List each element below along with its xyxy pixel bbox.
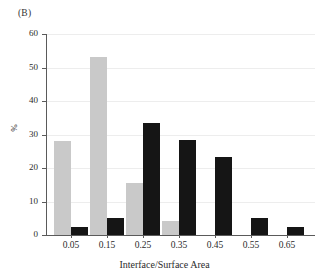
bar-black-2 — [143, 123, 160, 235]
histogram-figure: (B) % 60 50 40 30 20 10 0 — [0, 0, 329, 278]
x-tick-5 — [251, 235, 252, 238]
x-tick-2 — [143, 235, 144, 238]
bar-group-1 — [90, 34, 124, 235]
x-tick-3 — [179, 235, 180, 238]
bar-gray-0 — [54, 141, 71, 235]
y-tick-40 — [42, 101, 46, 102]
y-tick-label-40: 40 — [12, 96, 38, 105]
y-tick-label-10: 10 — [12, 197, 38, 206]
y-tick-label-20: 20 — [12, 163, 38, 172]
bar-group-4 — [198, 34, 232, 235]
y-tick-50 — [42, 68, 46, 69]
y-tick-label-50: 50 — [12, 63, 38, 72]
bar-black-3 — [179, 140, 196, 235]
bar-black-5 — [251, 218, 268, 235]
y-tick-10 — [42, 202, 46, 203]
bar-black-4 — [215, 157, 232, 235]
panel-label: (B) — [18, 8, 31, 18]
bar-group-3 — [162, 34, 196, 235]
x-tick-1 — [107, 235, 108, 238]
x-tick-6 — [287, 235, 288, 238]
x-tick-0 — [71, 235, 72, 238]
bar-group-5 — [234, 34, 268, 235]
y-tick-label-0: 0 — [12, 230, 38, 239]
x-axis-line — [46, 235, 315, 236]
x-axis-title: Interface/Surface Area — [0, 259, 329, 270]
bar-black-1 — [107, 218, 124, 235]
y-tick-label-30: 30 — [12, 130, 38, 139]
bar-group-6 — [270, 34, 304, 235]
x-tick-label-6: 0.65 — [265, 240, 309, 250]
bar-group-2 — [126, 34, 160, 235]
bar-gray-3 — [162, 221, 179, 235]
bar-gray-2 — [126, 183, 143, 235]
y-tick-0 — [42, 235, 46, 236]
y-tick-60 — [42, 34, 46, 35]
plot-area: 60 50 40 30 20 10 0 — [46, 34, 315, 235]
x-tick-4 — [215, 235, 216, 238]
bar-black-0 — [71, 227, 88, 235]
y-tick-label-60: 60 — [12, 29, 38, 38]
y-tick-30 — [42, 135, 46, 136]
y-tick-20 — [42, 168, 46, 169]
bar-black-6 — [287, 227, 304, 235]
bar-gray-1 — [90, 57, 107, 235]
bar-group-0 — [54, 34, 88, 235]
